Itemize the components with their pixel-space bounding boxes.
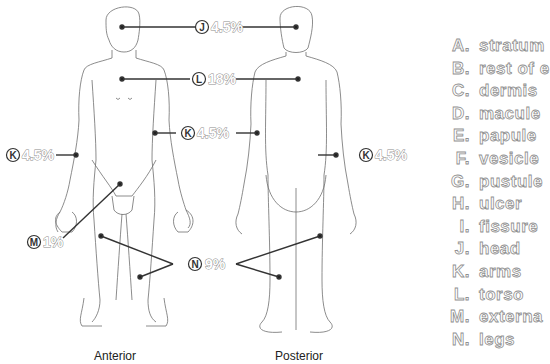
svg-text:N: N xyxy=(191,259,198,270)
legend-item: I.fissure xyxy=(440,217,550,240)
legend-item: H.ulcer xyxy=(440,194,550,217)
callout-arm-anterior-left: K 4.5% xyxy=(7,147,55,163)
svg-text:J: J xyxy=(199,22,205,33)
svg-text:L: L xyxy=(196,74,202,85)
svg-text:9%: 9% xyxy=(205,256,226,272)
anterior-figure xyxy=(56,7,193,326)
svg-text:18%: 18% xyxy=(208,71,237,87)
answer-legend: A.stratum B.rest of e C.dermis D.macule … xyxy=(440,36,550,352)
legend-item: K.arms xyxy=(440,262,550,285)
svg-text:K: K xyxy=(362,150,370,161)
callout-head: J 4.5% xyxy=(196,19,244,35)
legend-item: G.pustule xyxy=(440,172,550,195)
svg-text:K: K xyxy=(184,128,192,139)
callout-arm-anterior-right: K 4.5% xyxy=(182,125,230,141)
svg-text:4.5%: 4.5% xyxy=(197,125,229,141)
callout-genitalia: M 1% xyxy=(28,234,64,250)
legend-item: F.vesicle xyxy=(440,149,550,172)
svg-text:4.5%: 4.5% xyxy=(211,19,243,35)
caption-posterior: Posterior xyxy=(275,349,323,363)
legend-item: B.rest of e xyxy=(440,59,550,82)
svg-text:K: K xyxy=(9,150,17,161)
posterior-figure xyxy=(236,6,356,332)
svg-text:4.5%: 4.5% xyxy=(22,147,54,163)
legend-item: A.stratum xyxy=(440,36,550,59)
svg-text:M: M xyxy=(30,237,38,248)
legend-item: L.torso xyxy=(440,285,550,308)
callout-legs: N 9% xyxy=(189,256,226,272)
caption-anterior: Anterior xyxy=(94,349,136,363)
svg-text:1%: 1% xyxy=(43,234,64,250)
svg-text:4.5%: 4.5% xyxy=(375,147,407,163)
callout-arm-posterior: K 4.5% xyxy=(360,147,408,163)
callout-torso: L 18% xyxy=(193,71,237,87)
legend-item: N.legs xyxy=(440,330,550,353)
legend-item: E.papule xyxy=(440,126,550,149)
legend-item: M.externa xyxy=(440,307,550,330)
legend-item: J.head xyxy=(440,239,550,262)
legend-item: D.macule xyxy=(440,104,550,127)
legend-item: C.dermis xyxy=(440,81,550,104)
